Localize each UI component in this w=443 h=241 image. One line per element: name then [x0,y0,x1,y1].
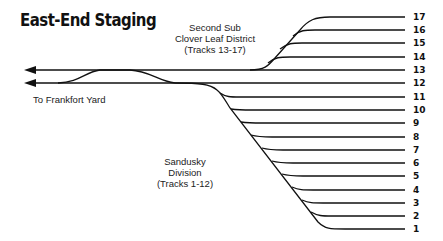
arrow-left-icon [24,66,36,74]
track-label-9: 9 [413,118,419,128]
lower-fan-trunk [175,83,405,229]
track-label-17: 17 [413,12,426,22]
crossover [58,70,175,83]
track-diagram: 17 16 15 14 13 12 11 10 9 8 7 6 5 4 3 2 … [0,0,443,241]
track-label-5: 5 [413,171,419,181]
track-label-1: 1 [413,224,419,234]
track-label-7: 7 [413,145,419,155]
track-label-12: 12 [413,78,426,88]
track-label-16: 16 [413,25,426,35]
track-label-8: 8 [413,132,419,142]
track-label-14: 14 [413,52,426,62]
track-label-6: 6 [413,158,419,168]
track-label-13: 13 [413,65,426,75]
track-label-10: 10 [413,105,426,115]
track-label-15: 15 [413,38,426,48]
track-label-3: 3 [413,198,419,208]
track-label-4: 4 [413,185,419,195]
track-label-11: 11 [413,92,426,102]
arrow-left-icon [24,79,36,87]
track-label-2: 2 [413,211,419,221]
